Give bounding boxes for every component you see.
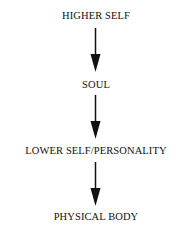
node-higher-self: HIGHER SELF [0, 10, 192, 22]
node-soul: SOUL [0, 79, 192, 91]
node-lower-self-personality: LOWER SELF/PERSONALITY [0, 145, 192, 157]
node-physical-body: PHYSICAL BODY [0, 211, 192, 223]
arrow-down-icon [90, 162, 101, 207]
arrow-down-icon [90, 28, 101, 73]
arrow-down-icon [90, 95, 101, 140]
